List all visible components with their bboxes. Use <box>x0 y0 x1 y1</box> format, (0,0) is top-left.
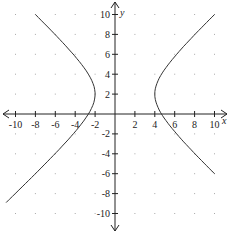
grid-dot <box>154 54 155 55</box>
grid-dot <box>154 14 155 15</box>
x-tick-label: 4 <box>152 119 157 130</box>
grid-dot <box>55 133 56 134</box>
grid-dot <box>15 54 16 55</box>
grid-dot <box>35 34 36 35</box>
grid-dot <box>154 133 155 134</box>
grid-dot <box>35 193 36 194</box>
grid-dot <box>154 34 155 35</box>
grid-dot <box>134 54 135 55</box>
grid-dot <box>15 133 16 134</box>
grid-dot <box>95 133 96 134</box>
grid-dot <box>174 14 175 15</box>
grid-dot <box>75 74 76 75</box>
grid-dot <box>15 153 16 154</box>
grid-dot <box>134 14 135 15</box>
grid-dot <box>55 213 56 214</box>
grid-dot <box>55 14 56 15</box>
grid-dot <box>154 173 155 174</box>
hyperbola-curves <box>6 15 214 203</box>
grid-dot <box>174 54 175 55</box>
grid-dot <box>194 133 195 134</box>
grid-dot <box>35 94 36 95</box>
grid-dot <box>95 213 96 214</box>
grid-dot <box>95 14 96 15</box>
grid-dot <box>134 153 135 154</box>
grid-dot <box>95 153 96 154</box>
grid-dot <box>75 213 76 214</box>
grid-dot <box>174 34 175 35</box>
grid-dot <box>15 213 16 214</box>
grid-dot <box>194 193 195 194</box>
grid-dot <box>134 213 135 214</box>
grid-dot <box>194 14 195 15</box>
grid-dot <box>134 193 135 194</box>
grid-dot <box>174 94 175 95</box>
grid-dot <box>214 94 215 95</box>
x-tick-label: -2 <box>91 119 99 130</box>
grid-dot <box>75 133 76 134</box>
grid-dot <box>134 34 135 35</box>
grid-dot <box>15 173 16 174</box>
grid-dot <box>35 54 36 55</box>
grid-dot <box>194 54 195 55</box>
y-tick-label: -6 <box>102 168 110 179</box>
grid-dot <box>214 133 215 134</box>
y-tick-label: 10 <box>100 9 110 20</box>
x-tick-label: 2 <box>132 119 137 130</box>
x-axis-label: x <box>221 115 227 126</box>
grid-dot <box>15 94 16 95</box>
x-tick-label: 6 <box>172 119 177 130</box>
grid-dot <box>15 34 16 35</box>
grid-dot <box>194 74 195 75</box>
grid-dot <box>214 74 215 75</box>
grid-dot <box>75 14 76 15</box>
grid-dot <box>55 173 56 174</box>
grid-dot <box>15 14 16 15</box>
grid-dot <box>194 94 195 95</box>
grid-dot <box>95 193 96 194</box>
grid-dot <box>174 153 175 154</box>
grid-dot <box>214 153 215 154</box>
y-tick-label: 4 <box>105 69 110 80</box>
left-branch-curve <box>6 15 95 203</box>
y-tick-label: -10 <box>97 208 110 219</box>
x-tick-label: 10 <box>210 119 220 130</box>
grid-dot <box>214 34 215 35</box>
grid-dot <box>174 193 175 194</box>
y-axis-label: y <box>119 7 125 18</box>
grid-dot <box>35 153 36 154</box>
grid-dot <box>134 74 135 75</box>
grid-dot <box>134 133 135 134</box>
y-tick-label: -8 <box>102 188 110 199</box>
grid-dot <box>75 173 76 174</box>
grid-dot <box>35 213 36 214</box>
grid-dot <box>214 193 215 194</box>
hyperbola-graph: -10-8-6-4-2246810108642-2-4-6-8-10xy <box>0 0 230 233</box>
grid-dot <box>174 133 175 134</box>
grid-dot <box>174 213 175 214</box>
right-branch-curve <box>155 15 215 174</box>
y-tick-label: 8 <box>105 29 110 40</box>
x-tick-label: -8 <box>31 119 39 130</box>
grid-dot <box>55 74 56 75</box>
grid-dot <box>154 193 155 194</box>
y-tick-label: -4 <box>102 148 110 159</box>
grid-dot <box>154 153 155 154</box>
grid-dot <box>75 193 76 194</box>
grid-dot <box>55 54 56 55</box>
grid-dot <box>55 94 56 95</box>
grid-dot <box>214 213 215 214</box>
grid-dot <box>95 34 96 35</box>
grid-dot <box>154 213 155 214</box>
grid-dot <box>55 193 56 194</box>
grid-dot <box>95 74 96 75</box>
grid-dot <box>194 173 195 174</box>
grid-dot <box>35 133 36 134</box>
grid-dot <box>95 54 96 55</box>
grid-dot <box>214 54 215 55</box>
grid-dot <box>134 94 135 95</box>
grid-dot <box>174 173 175 174</box>
grid-dot <box>154 74 155 75</box>
x-tick-label: -6 <box>51 119 59 130</box>
grid-dot <box>194 213 195 214</box>
